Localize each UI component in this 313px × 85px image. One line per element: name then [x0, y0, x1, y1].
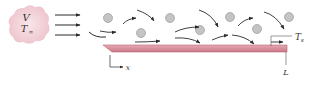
streamline-arrow-icon [123, 18, 136, 24]
particle-icon [285, 13, 294, 22]
streamline-arrow-icon [135, 41, 160, 42]
particles [104, 13, 294, 38]
particle-icon [226, 13, 235, 22]
particle-icon [137, 29, 146, 38]
freestream-cloud: V T ∞ [9, 5, 50, 44]
streamline-arrow-icon [199, 10, 218, 27]
particle-icon [166, 14, 175, 23]
leading-flow-curve [89, 32, 106, 37]
x-axis-label: x [126, 64, 130, 72]
streamline-arrow-icon [212, 35, 228, 40]
flat-plate-flow-diagram: V T ∞ T [0, 0, 313, 85]
callout-leader-line [271, 36, 292, 46]
streamline-arrow-icon [137, 10, 154, 21]
particle-icon [104, 14, 113, 23]
particle-icon [253, 25, 262, 34]
streamline-arrow-icon [264, 12, 284, 29]
incoming-flow-arrows [55, 15, 80, 35]
plate-body [103, 45, 287, 52]
flat-plate [103, 45, 287, 52]
streamline-arrow-icon [232, 35, 254, 44]
plate-length-label: L [282, 68, 288, 77]
surface-temp-callout [271, 36, 292, 46]
freestream-temperature-subscript: ∞ [29, 28, 34, 35]
streamline-arrow-icon [100, 31, 116, 32]
x-axis-marker [110, 55, 123, 67]
surface-temperature-subscript: s [301, 37, 304, 43]
cloud-shape [9, 5, 50, 44]
x-axis-line [110, 55, 123, 67]
streamline-arrow-icon [175, 38, 200, 43]
streamline-arrow-icon [238, 18, 253, 26]
